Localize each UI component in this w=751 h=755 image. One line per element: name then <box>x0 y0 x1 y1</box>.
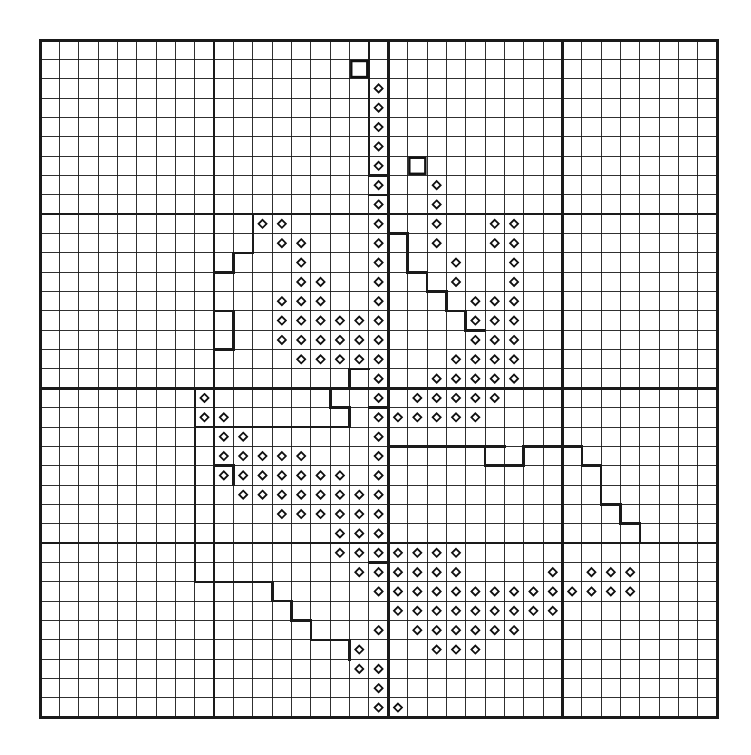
diamond-marker <box>375 375 383 383</box>
diamond-marker <box>433 394 441 402</box>
diamond-marker <box>452 394 460 402</box>
diamond-marker <box>471 646 479 654</box>
diamond-marker <box>452 259 460 267</box>
diamond-marker <box>452 587 460 595</box>
diamond-marker <box>317 510 325 518</box>
diamond-marker <box>510 336 518 344</box>
diamond-marker <box>607 587 615 595</box>
diamond-marker <box>259 452 267 460</box>
diamond-marker <box>394 413 402 421</box>
diamond-marker <box>491 375 499 383</box>
diamond-marker <box>375 278 383 286</box>
diamond-marker <box>452 607 460 615</box>
diamond-marker <box>297 336 305 344</box>
diamond-marker <box>433 375 441 383</box>
diamond-marker <box>278 239 286 247</box>
diamond-marker <box>336 336 344 344</box>
diamond-marker <box>375 704 383 712</box>
diamond-marker <box>510 375 518 383</box>
diamond-marker <box>278 510 286 518</box>
diamond-marker <box>433 220 441 228</box>
diamond-marker <box>239 433 247 441</box>
diamond-marker <box>375 104 383 112</box>
diamond-marker <box>529 607 537 615</box>
diamond-marker <box>452 278 460 286</box>
diamond-marker <box>471 607 479 615</box>
diamond-marker <box>510 317 518 325</box>
diamond-marker <box>355 568 363 576</box>
diamond-marker <box>375 452 383 460</box>
diamond-marker <box>510 355 518 363</box>
diamond-marker <box>200 413 208 421</box>
diamond-marker <box>529 587 537 595</box>
diamond-marker <box>239 471 247 479</box>
diamond-marker <box>394 549 402 557</box>
diamond-marker <box>491 220 499 228</box>
diamond-marker <box>375 220 383 228</box>
diamond-marker <box>200 394 208 402</box>
diamond-marker <box>626 568 634 576</box>
diamond-marker <box>297 278 305 286</box>
region-boundary-10 <box>485 446 504 465</box>
diamond-marker <box>355 355 363 363</box>
diamond-marker <box>336 317 344 325</box>
diamond-marker <box>375 181 383 189</box>
diamond-marker <box>297 491 305 499</box>
diamond-marker <box>433 587 441 595</box>
diamond-marker <box>375 200 383 208</box>
diamond-marker <box>394 587 402 595</box>
open-square-marker <box>409 158 425 174</box>
diamond-marker <box>297 355 305 363</box>
diamond-marker <box>452 375 460 383</box>
diamond-marker <box>336 355 344 363</box>
diamond-marker <box>433 181 441 189</box>
diamond-marker <box>471 297 479 305</box>
diamond-marker <box>471 413 479 421</box>
diamond-marker <box>278 317 286 325</box>
diamond-marker <box>491 355 499 363</box>
diamond-marker <box>471 626 479 634</box>
diamond-marker <box>297 297 305 305</box>
diamond-marker <box>491 607 499 615</box>
diamond-marker <box>259 471 267 479</box>
diamond-marker <box>452 646 460 654</box>
diamond-marker <box>317 471 325 479</box>
diamond-marker <box>317 355 325 363</box>
diamond-marker <box>491 587 499 595</box>
diamond-marker <box>375 684 383 692</box>
diamond-marker <box>491 336 499 344</box>
diamond-marker <box>413 626 421 634</box>
region-boundary-7 <box>214 408 349 427</box>
diamond-marker <box>452 568 460 576</box>
diamond-marker <box>549 607 557 615</box>
diamond-marker <box>297 239 305 247</box>
diamond-marker <box>471 394 479 402</box>
diamond-marker <box>433 200 441 208</box>
diamond-marker <box>394 568 402 576</box>
diamond-marker <box>413 607 421 615</box>
diamond-marker <box>510 259 518 267</box>
diamond-marker <box>297 471 305 479</box>
map-canvas <box>0 0 751 755</box>
diamond-marker <box>471 317 479 325</box>
diamond-marker <box>375 355 383 363</box>
diamond-marker <box>297 317 305 325</box>
diamond-marker <box>491 297 499 305</box>
diamond-marker <box>510 239 518 247</box>
diamond-marker <box>452 413 460 421</box>
diamond-marker <box>239 491 247 499</box>
diamond-marker <box>413 413 421 421</box>
diamond-marker <box>491 239 499 247</box>
diamond-marker <box>510 587 518 595</box>
diamond-marker <box>433 646 441 654</box>
diamond-marker <box>549 568 557 576</box>
diamond-marker <box>317 317 325 325</box>
diamond-marker <box>433 626 441 634</box>
diamond-marker <box>375 259 383 267</box>
diamond-marker <box>220 471 228 479</box>
distribution-markers <box>200 61 634 712</box>
diamond-marker <box>375 239 383 247</box>
diamond-marker <box>317 297 325 305</box>
diamond-marker <box>394 607 402 615</box>
diamond-marker <box>355 491 363 499</box>
